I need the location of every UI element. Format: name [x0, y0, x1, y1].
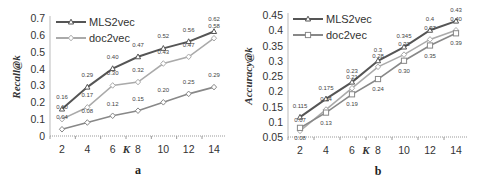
legend-label: MLS2vec — [89, 16, 135, 28]
triangle-legend-icon — [305, 16, 310, 21]
data-label: 0.24 — [372, 86, 384, 92]
data-label: 0.52 — [157, 33, 169, 39]
square-marker-icon — [453, 31, 458, 36]
y-tick-label: 0.05 — [263, 131, 284, 143]
x-tick-label: 6 — [110, 143, 116, 155]
square-marker-icon — [401, 58, 406, 63]
x-tick-label: 8 — [135, 143, 141, 155]
y-axis-label: Recall@k — [10, 55, 22, 100]
x-tick-label: 10 — [398, 144, 410, 156]
data-label: 0.40 — [107, 54, 119, 60]
data-label: 0.4 — [426, 16, 435, 22]
data-label: 0.40 — [450, 16, 462, 22]
x-tick-label: 2 — [59, 143, 65, 155]
diamond-marker-icon — [186, 91, 191, 97]
y-axis-label: Accuracy@k — [242, 47, 254, 106]
y-tick-label: 0.5 — [30, 46, 45, 58]
x-axis-label: K — [361, 144, 370, 156]
data-label: 0.115 — [293, 103, 308, 109]
y-tick-label: 0.1 — [268, 116, 283, 128]
data-label: 0.16 — [56, 94, 68, 100]
triangle-marker-icon — [135, 54, 140, 59]
data-label: 0.07 — [294, 117, 306, 123]
data-label: 0.43 — [157, 49, 169, 55]
x-tick-label: 2 — [297, 144, 303, 156]
y-tick-label: 0.4 — [30, 63, 45, 75]
diamond-marker-icon — [211, 84, 216, 90]
square-marker-icon — [323, 110, 328, 115]
data-label: 0.25 — [183, 79, 195, 85]
data-label: 0.32 — [398, 41, 410, 47]
triangle-marker-icon — [211, 29, 216, 34]
data-label: 0.19 — [346, 101, 358, 107]
data-label: 0.32 — [132, 67, 144, 73]
y-tick-label: 0.4 — [268, 24, 283, 36]
data-label: 0.10 — [56, 104, 68, 110]
diamond-legend-icon — [68, 35, 73, 41]
diamond-marker-icon — [110, 113, 115, 119]
y-tick-label: 0 — [39, 130, 45, 142]
y-tick-label: 0.7 — [30, 12, 45, 24]
triangle-legend-icon — [68, 19, 73, 24]
legend: MLS2vecdoc2vec — [56, 16, 135, 44]
y-tick-label: 0.15 — [263, 101, 284, 113]
data-label: 0.14 — [320, 96, 332, 102]
data-label: 0.08 — [294, 135, 306, 141]
data-label: 0.62 — [208, 16, 220, 22]
data-label: 0.12 — [107, 101, 119, 107]
legend-label: doc2vec — [326, 29, 367, 41]
x-tick-label: 14 — [450, 144, 462, 156]
data-label: 0.30 — [107, 70, 119, 76]
square-marker-icon — [375, 76, 380, 81]
data-label: 0.29 — [81, 72, 93, 78]
series-mls2vec: 0.1150.1750.230.30.3450.40.43 — [293, 7, 463, 119]
legend: MLS2vecdoc2vec — [293, 13, 372, 41]
data-label: 0.58 — [208, 23, 220, 29]
data-label: 0.29 — [208, 72, 220, 78]
data-label: 0.04 — [56, 114, 68, 120]
y-tick-label: 0.35 — [263, 40, 284, 52]
y-tick-label: 0.3 — [30, 79, 45, 91]
y-tick-label: 0.2 — [268, 85, 283, 97]
x-tick-label: 6 — [349, 144, 355, 156]
x-tick-label: 14 — [208, 143, 220, 155]
diamond-marker-icon — [135, 108, 140, 114]
data-label: 0.39 — [450, 40, 462, 46]
legend-label: MLS2vec — [326, 13, 372, 25]
figure: 00.10.20.30.40.50.60.72468101214KRecall@… — [0, 0, 482, 181]
diamond-marker-icon — [85, 120, 90, 126]
x-tick-label: 12 — [424, 144, 436, 156]
data-label: 0.15 — [132, 96, 144, 102]
y-tick-label: 0.3 — [268, 55, 283, 67]
square-marker-icon — [427, 43, 432, 48]
data-label: 0.17 — [81, 92, 93, 98]
square-legend-icon — [305, 32, 310, 37]
square-marker-icon — [297, 125, 302, 130]
legend-label: doc2vec — [89, 32, 130, 44]
y-tick-label: 0.6 — [30, 29, 45, 41]
x-tick-label: 8 — [375, 144, 381, 156]
x-tick-label: 4 — [323, 144, 329, 156]
data-label: 0.175 — [318, 85, 334, 91]
data-label: 0.56 — [183, 27, 195, 33]
data-label: 0.43 — [450, 7, 462, 13]
data-label: 0.47 — [183, 42, 195, 48]
data-label: 0.08 — [81, 108, 93, 114]
recall-chart: 00.10.20.30.40.50.60.72468101214KRecall@… — [0, 0, 241, 181]
x-tick-label: 4 — [84, 143, 90, 155]
data-label: 0.47 — [132, 42, 144, 48]
data-label: 0.345 — [396, 33, 412, 39]
panel-caption: a — [135, 163, 141, 177]
y-tick-label: 0.1 — [30, 113, 45, 125]
data-label: 0.23 — [346, 68, 358, 74]
y-tick-label: 0.45 — [263, 9, 284, 21]
accuracy-chart: 0.050.10.150.20.250.30.350.40.4524681012… — [241, 0, 482, 181]
data-label: 0.35 — [424, 53, 436, 59]
data-label: 0.28 — [372, 53, 384, 59]
data-label: 0.3 — [374, 47, 383, 53]
y-tick-label: 0.2 — [30, 96, 45, 108]
data-label: 0.30 — [398, 68, 410, 74]
panel-caption: b — [375, 164, 382, 178]
square-marker-icon — [349, 92, 354, 97]
data-label: 0.37 — [424, 25, 436, 31]
